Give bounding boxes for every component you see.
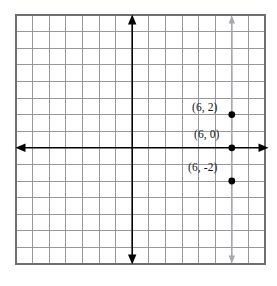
coordinate-grid-figure: (6, 2) (6, 0) (6, -2) xyxy=(0,0,277,286)
point-6-negative-2[interactable] xyxy=(228,178,235,185)
grid-lines xyxy=(16,15,265,264)
grid-border xyxy=(16,15,265,264)
x-equals-6-line xyxy=(229,16,235,264)
point-label-6-2: (6, 2) xyxy=(192,101,218,113)
coordinate-plane-svg xyxy=(0,0,277,286)
point-label-6-0: (6, 0) xyxy=(194,128,220,140)
y-axis xyxy=(128,15,136,265)
point-6-0[interactable] xyxy=(228,144,235,151)
point-label-6-negative-2: (6, -2) xyxy=(188,161,217,173)
point-6-2[interactable] xyxy=(228,111,235,118)
